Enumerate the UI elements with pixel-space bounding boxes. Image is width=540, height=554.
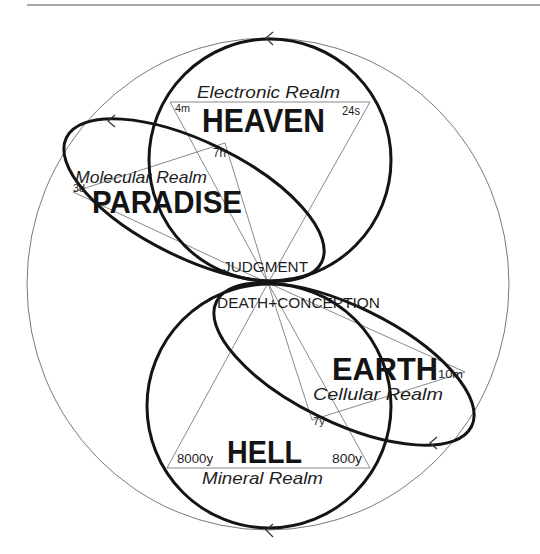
paradise-outer-time: 3d [73, 183, 85, 194]
hell-title: HELL [227, 434, 302, 470]
heaven-title: HEAVEN [202, 102, 325, 139]
arrow-left-icon [108, 115, 115, 127]
arrow-left-icon [266, 524, 273, 537]
earth-outer-time: 10m [438, 368, 463, 380]
arrow-left-icon [430, 437, 437, 449]
paradise-inner-time: 7h [213, 146, 226, 160]
heaven-circle [149, 39, 391, 281]
hell-realm-label: Mineral Realm [202, 469, 323, 488]
earth-realm-label: Cellular Realm [313, 385, 443, 404]
earth-inner-time: 7y [313, 415, 326, 427]
judgment-label: JUDGMENT [223, 258, 308, 275]
heaven-realm-label: Electronic Realm [197, 83, 340, 102]
paradise-title: PARADISE [92, 184, 242, 220]
heaven-left-time: 4m [175, 102, 190, 114]
hell-right-time: 800y [332, 452, 362, 466]
hell-circle [147, 284, 391, 528]
hell-left-time: 8000y [177, 452, 213, 466]
earth-title: EARTH [332, 351, 438, 387]
heaven-right-time: 24s [342, 104, 360, 118]
death-conception-label: DEATH+CONCEPTION [217, 294, 380, 311]
cosmology-diagram: Electronic Realm 4m 24s HEAVEN 7h Molecu… [0, 0, 540, 554]
